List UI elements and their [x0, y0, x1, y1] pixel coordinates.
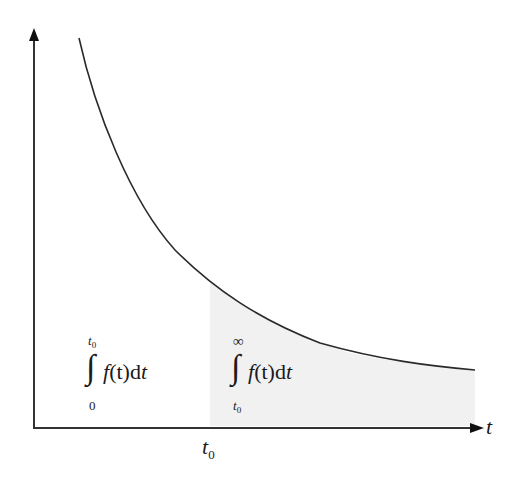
- diagram-canvas: t t0 t0 ∫ f(t)dt 0 ∞ ∫ f(t)dt t0: [0, 0, 521, 480]
- y-axis-arrow-icon: [29, 28, 39, 41]
- shaded-area: [210, 281, 475, 426]
- integral-left-integrand: f(t)dt: [103, 359, 147, 385]
- t0-tick-label: t0: [202, 434, 215, 463]
- integral-sign-icon: ∫: [231, 350, 240, 384]
- integral-right-lower: t0: [233, 398, 241, 415]
- plot-svg: [0, 0, 521, 480]
- x-axis-label: t: [486, 414, 492, 440]
- function-curve: [79, 38, 475, 370]
- integral-left-lower: 0: [89, 398, 96, 414]
- x-axis-arrow-icon: [470, 423, 484, 433]
- integral-right-integrand: f(t)dt: [248, 359, 292, 385]
- integral-sign-icon: ∫: [86, 350, 95, 384]
